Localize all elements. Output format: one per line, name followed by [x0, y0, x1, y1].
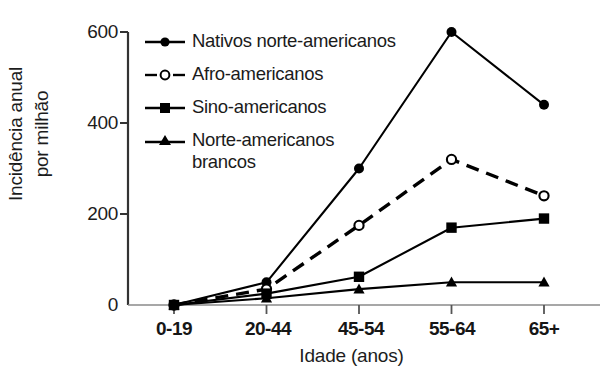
data-point: [354, 164, 364, 174]
data-point: [539, 191, 548, 200]
x-tick-marks: [174, 305, 544, 314]
legend-item-brancos: Norte-americanos brancos: [143, 129, 433, 162]
chart-figure: Incidência anual por milhão 600 400 200 …: [0, 0, 613, 387]
y-tick-marks: [120, 32, 128, 214]
legend-key-filled-square-icon: [143, 98, 187, 118]
data-point: [446, 222, 456, 232]
legend-key-open-circle-icon: [143, 65, 187, 85]
data-point: [354, 272, 364, 282]
legend-marker-svg: [143, 131, 187, 151]
data-point: [539, 213, 549, 223]
legend-key-filled-triangle-icon: [143, 131, 187, 151]
data-point: [447, 27, 457, 37]
data-point: [354, 221, 363, 230]
legend-label-afro: Afro-americanos: [187, 63, 323, 85]
legend-marker-svg: [143, 65, 187, 85]
legend-label-nativos: Nativos norte-americanos: [187, 30, 396, 52]
legend-label-brancos: Norte-americanos brancos: [187, 129, 334, 173]
legend: Nativos norte-americanos Afro-americanos…: [143, 30, 433, 162]
data-point: [539, 100, 549, 110]
legend-marker-svg: [143, 32, 187, 52]
legend-key-filled-circle-icon: [143, 32, 187, 52]
legend-label-sino: Sino-americanos: [187, 96, 326, 118]
data-point: [447, 155, 456, 164]
legend-marker-svg: [143, 98, 187, 118]
legend-item-nativos: Nativos norte-americanos: [143, 30, 433, 63]
legend-item-sino: Sino-americanos: [143, 96, 433, 129]
legend-item-afro: Afro-americanos: [143, 63, 433, 96]
